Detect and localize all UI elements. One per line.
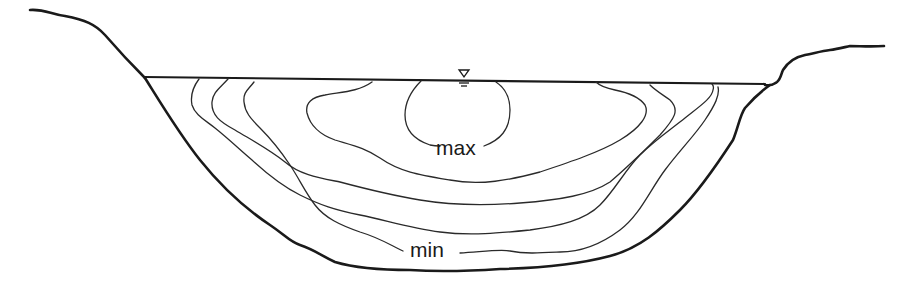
channel-cross-section-diagram: max min	[0, 0, 907, 288]
water-level-icon	[459, 70, 469, 86]
channel-bed	[145, 78, 770, 271]
water-surface-line	[144, 77, 765, 84]
right-bank	[765, 46, 884, 85]
min-label: min	[410, 238, 444, 261]
max-label: max	[436, 136, 476, 159]
isovel-max-right	[484, 82, 510, 146]
isovel-min-right	[460, 87, 718, 253]
isovel-min	[244, 82, 403, 251]
isovel-max	[405, 81, 440, 146]
left-bank	[30, 10, 145, 78]
isovel-2	[307, 82, 647, 182]
